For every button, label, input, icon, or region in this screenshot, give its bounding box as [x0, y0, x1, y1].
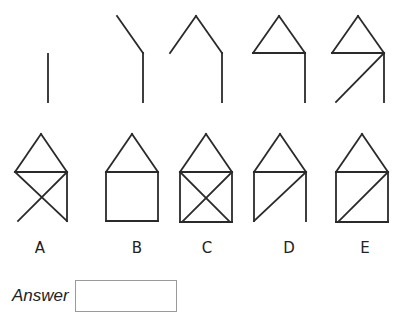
- sequence-figures: [48, 16, 384, 102]
- option-figure-d-stroke-1: [254, 134, 280, 172]
- option-label-b[interactable]: B: [125, 239, 149, 257]
- sequence-figure-step-4: [253, 16, 305, 102]
- option-label-d[interactable]: D: [277, 239, 301, 257]
- option-figure-e-stroke-1: [336, 134, 362, 172]
- sequence-figure-step-2: [117, 16, 143, 102]
- option-figure-c-stroke-8: [182, 172, 232, 222]
- option-figure-b-stroke-1: [106, 134, 132, 172]
- sequence-figure-step-2-stroke-1: [117, 16, 143, 53]
- option-figure-c-stroke-7: [180, 172, 230, 222]
- option-figure-e-stroke-2: [362, 134, 388, 172]
- option-figure-e: [336, 134, 388, 222]
- sequence-figure-step-5-stroke-2: [358, 16, 384, 53]
- option-label-a[interactable]: A: [28, 239, 52, 257]
- sequence-figure-step-5: [332, 16, 384, 102]
- sequence-figure-step-4-stroke-2: [279, 16, 305, 53]
- option-figures: [15, 134, 388, 222]
- option-figure-d-stroke-6: [254, 172, 306, 221]
- option-figure-a-stroke-1: [15, 134, 41, 172]
- answer-input[interactable]: [75, 280, 177, 312]
- option-figure-c: [180, 134, 232, 222]
- sequence-figure-step-5-stroke-1: [332, 16, 358, 53]
- sequence-figure-step-4-stroke-1: [253, 16, 279, 53]
- option-figure-d-stroke-2: [280, 134, 306, 172]
- option-figure-d: [254, 134, 306, 221]
- sequence-figure-step-5-stroke-5: [336, 53, 384, 102]
- option-figure-e-stroke-7: [338, 172, 388, 222]
- sequence-figure-step-3: [170, 16, 222, 102]
- sequence-figure-step-3-stroke-2: [196, 16, 222, 53]
- puzzle-figures: [0, 0, 402, 314]
- option-figure-a: [15, 134, 67, 221]
- option-figure-b-stroke-2: [132, 134, 158, 172]
- option-figure-c-stroke-1: [180, 134, 206, 172]
- option-figure-b: [106, 134, 158, 221]
- option-figure-a-stroke-2: [41, 134, 67, 172]
- option-figure-c-stroke-2: [206, 134, 232, 172]
- sequence-figure-step-3-stroke-1: [170, 16, 196, 53]
- option-label-e[interactable]: E: [353, 239, 377, 257]
- answer-label: Answer: [12, 286, 69, 306]
- option-label-c[interactable]: C: [195, 239, 219, 257]
